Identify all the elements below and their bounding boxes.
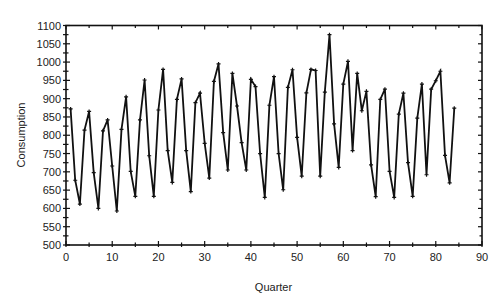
data-point-marker <box>189 190 193 194</box>
data-point-marker <box>82 128 86 132</box>
data-point-marker <box>244 168 248 172</box>
data-point-marker <box>235 104 239 108</box>
data-point-marker <box>300 174 304 178</box>
data-point-marker <box>110 164 114 168</box>
data-point-marker <box>443 153 447 157</box>
y-tick-label: 500 <box>43 239 61 251</box>
y-tick-label: 1050 <box>37 38 61 50</box>
data-point-marker <box>452 106 456 110</box>
data-point-marker <box>364 89 368 93</box>
y-tick-label: 1100 <box>37 20 61 32</box>
data-point-marker <box>170 180 174 184</box>
data-point-marker <box>147 154 151 158</box>
data-point-marker <box>119 127 123 131</box>
data-point-marker <box>420 82 424 86</box>
data-point-marker <box>156 108 160 112</box>
data-point-marker <box>309 67 313 71</box>
series-line <box>71 35 455 211</box>
x-tick-label: 10 <box>106 251 118 263</box>
data-point-marker <box>401 91 405 95</box>
data-point-marker <box>327 33 331 37</box>
data-point-marker <box>166 149 170 153</box>
x-tick-label: 90 <box>476 251 488 263</box>
data-point-marker <box>184 149 188 153</box>
data-point-marker <box>133 194 137 198</box>
y-axis-label: Consumption <box>15 103 27 168</box>
y-tick-label: 1000 <box>37 56 61 68</box>
data-point-marker <box>212 79 216 83</box>
data-point-marker <box>323 90 327 94</box>
y-tick-label: 850 <box>43 111 61 123</box>
data-point-marker <box>406 161 410 165</box>
data-point-marker <box>281 188 285 192</box>
x-tick-label: 80 <box>430 251 442 263</box>
data-point-marker <box>124 95 128 99</box>
data-point-marker <box>272 75 276 79</box>
data-point-marker <box>286 85 290 89</box>
data-point-marker <box>397 112 401 116</box>
data-point-marker <box>374 195 378 199</box>
data-point-marker <box>221 131 225 135</box>
x-tick-label: 0 <box>63 251 69 263</box>
data-point-marker <box>226 168 230 172</box>
data-point-marker <box>143 78 147 82</box>
data-point-marker <box>411 194 415 198</box>
data-point-marker <box>355 71 359 75</box>
data-point-marker <box>207 176 211 180</box>
data-point-marker <box>180 77 184 81</box>
data-point-marker <box>129 169 133 173</box>
x-tick-label: 70 <box>383 251 395 263</box>
data-point-marker <box>337 165 341 169</box>
consumption-line-chart: 0102030405060708090 50055060065070075080… <box>0 0 502 305</box>
data-point-marker <box>217 62 221 66</box>
data-point-marker <box>240 141 244 145</box>
y-tick-label: 950 <box>43 74 61 86</box>
data-point-marker <box>78 202 82 206</box>
data-point-marker <box>152 194 156 198</box>
y-tick-label: 750 <box>43 148 61 160</box>
y-tick-label: 600 <box>43 202 61 214</box>
data-point-marker <box>415 116 419 120</box>
data-point-marker <box>314 68 318 72</box>
data-point-marker <box>369 163 373 167</box>
data-point-marker <box>346 59 350 63</box>
data-point-marker <box>175 97 179 101</box>
data-point-marker <box>341 82 345 86</box>
y-tick-label: 550 <box>43 221 61 233</box>
data-point-marker <box>351 149 355 153</box>
data-point-marker <box>203 141 207 145</box>
data-point-marker <box>73 178 77 182</box>
y-tick-label: 650 <box>43 184 61 196</box>
x-tick-label: 60 <box>337 251 349 263</box>
data-point-marker <box>388 169 392 173</box>
data-point-marker <box>425 173 429 177</box>
x-tick-label: 50 <box>291 251 303 263</box>
data-point-marker <box>258 152 262 156</box>
data-point-marker <box>304 91 308 95</box>
data-point-marker <box>230 71 234 75</box>
x-tick-label: 40 <box>245 251 257 263</box>
data-point-marker <box>295 135 299 139</box>
x-axis-label: Quarter <box>255 281 293 293</box>
data-series <box>69 33 457 213</box>
x-tick-label: 20 <box>152 251 164 263</box>
data-point-marker <box>267 103 271 107</box>
y-tick-label: 700 <box>43 166 61 178</box>
data-point-marker <box>263 195 267 199</box>
data-point-marker <box>277 152 281 156</box>
data-point-marker <box>161 67 165 71</box>
data-point-marker <box>96 206 100 210</box>
data-point-marker <box>69 107 73 111</box>
data-point-marker <box>92 171 96 175</box>
y-tick-label: 800 <box>43 129 61 141</box>
data-point-marker <box>392 195 396 199</box>
data-point-marker <box>115 209 119 213</box>
data-point-marker <box>87 109 91 113</box>
data-point-marker <box>360 109 364 113</box>
data-point-marker <box>290 68 294 72</box>
data-point-marker <box>448 181 452 185</box>
y-tick-label: 900 <box>43 93 61 105</box>
data-point-marker <box>332 122 336 126</box>
data-point-marker <box>138 118 142 122</box>
data-point-marker <box>318 174 322 178</box>
